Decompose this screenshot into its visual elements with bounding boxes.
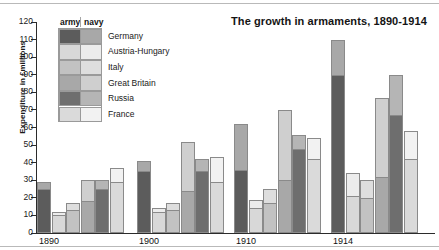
bar-italy-1890[interactable] bbox=[66, 203, 80, 233]
legend-item-great-britain[interactable] bbox=[59, 76, 103, 92]
bar-segment-army bbox=[360, 198, 374, 233]
legend-label: Russia bbox=[108, 94, 134, 103]
bar-segment-navy bbox=[249, 200, 263, 209]
legend-header-army: army bbox=[60, 17, 80, 27]
bar-italy-1900[interactable] bbox=[166, 203, 180, 233]
legend-swatch-army bbox=[59, 107, 81, 123]
bar-segment-navy bbox=[263, 189, 277, 203]
legend-label: Great Britain bbox=[108, 79, 156, 88]
legend-swatch-navy bbox=[80, 107, 102, 123]
bar-germany-1900[interactable] bbox=[137, 161, 151, 233]
legend-swatch-navy bbox=[80, 91, 102, 107]
bar-segment-navy bbox=[389, 75, 403, 115]
bar-germany-1910[interactable] bbox=[234, 124, 248, 233]
legend-item-austria-hungary[interactable] bbox=[59, 45, 103, 61]
x-axis-line bbox=[36, 233, 435, 234]
y-axis-tick-label: 80 bbox=[7, 87, 33, 96]
bar-segment-navy bbox=[52, 212, 66, 216]
bar-segment-navy bbox=[181, 142, 195, 191]
bar-segment-army bbox=[181, 191, 195, 233]
y-axis-tick-label: 40 bbox=[7, 158, 33, 167]
bar-segment-navy bbox=[137, 161, 151, 172]
bar-austria-hungary-1910[interactable] bbox=[249, 200, 263, 233]
bar-segment-navy bbox=[404, 131, 418, 159]
bar-segment-army bbox=[234, 170, 248, 233]
bar-segment-army bbox=[195, 171, 209, 233]
bar-russia-1910[interactable] bbox=[292, 135, 306, 233]
bar-segment-army bbox=[37, 189, 51, 233]
bar-great-britain-1900[interactable] bbox=[181, 142, 195, 233]
bar-segment-army bbox=[389, 115, 403, 233]
bar-great-britain-1910[interactable] bbox=[278, 110, 292, 233]
y-axis-tick-label: 100 bbox=[7, 52, 33, 61]
legend-label: Austria-Hungary bbox=[108, 47, 169, 56]
bar-segment-navy bbox=[331, 40, 345, 75]
y-axis-tick-label: 0 bbox=[7, 228, 33, 237]
y-axis-tick-label: 90 bbox=[7, 70, 33, 79]
bar-segment-army bbox=[95, 189, 109, 233]
bar-segment-navy bbox=[110, 168, 124, 182]
bar-great-britain-1890[interactable] bbox=[81, 180, 95, 233]
bar-segment-army bbox=[152, 212, 166, 233]
legend-item-italy[interactable] bbox=[59, 60, 103, 76]
y-axis-tick-label: 110 bbox=[7, 35, 33, 44]
bar-group bbox=[234, 22, 322, 233]
legend-label: Italy bbox=[108, 63, 124, 72]
y-axis-tick-label: 50 bbox=[7, 140, 33, 149]
legend-item-russia[interactable] bbox=[59, 91, 103, 107]
bar-group bbox=[331, 22, 419, 233]
bar-segment-navy bbox=[375, 98, 389, 177]
legend-swatch-navy bbox=[80, 29, 102, 45]
legend-item-germany[interactable] bbox=[59, 29, 103, 45]
bar-segment-navy bbox=[166, 203, 180, 210]
bar-segment-army bbox=[263, 203, 277, 233]
bar-segment-navy bbox=[346, 173, 360, 196]
bar-germany-1890[interactable] bbox=[37, 182, 51, 233]
legend-swatch-army bbox=[59, 75, 81, 91]
legend-item-france[interactable] bbox=[59, 107, 103, 123]
top-divider bbox=[0, 3, 439, 4]
bar-france-1910[interactable] bbox=[307, 138, 321, 233]
bar-great-britain-1914[interactable] bbox=[375, 98, 389, 233]
bar-russia-1914[interactable] bbox=[389, 75, 403, 233]
bar-france-1890[interactable] bbox=[110, 168, 124, 233]
bar-segment-army bbox=[346, 196, 360, 233]
legend-label: Germany bbox=[108, 32, 143, 41]
bar-austria-hungary-1914[interactable] bbox=[346, 173, 360, 233]
bar-italy-1914[interactable] bbox=[360, 180, 374, 233]
y-axis-tick-label: 70 bbox=[7, 105, 33, 114]
bar-segment-army bbox=[375, 177, 389, 233]
bar-austria-hungary-1890[interactable] bbox=[52, 212, 66, 233]
bar-segment-navy bbox=[234, 124, 248, 170]
legend-box bbox=[58, 28, 102, 122]
bar-russia-1890[interactable] bbox=[95, 180, 109, 233]
x-axis-tick-label: 1914 bbox=[333, 236, 353, 246]
bar-russia-1900[interactable] bbox=[195, 159, 209, 233]
bar-segment-navy bbox=[210, 157, 224, 182]
bar-france-1900[interactable] bbox=[210, 157, 224, 233]
bar-segment-army bbox=[331, 75, 345, 233]
bar-germany-1914[interactable] bbox=[331, 40, 345, 233]
bar-segment-navy bbox=[37, 182, 51, 189]
bar-austria-hungary-1900[interactable] bbox=[152, 208, 166, 233]
bar-segment-navy bbox=[307, 138, 321, 159]
bar-italy-1910[interactable] bbox=[263, 189, 277, 233]
bar-segment-army bbox=[404, 159, 418, 233]
bar-segment-navy bbox=[292, 135, 306, 149]
y-axis-tick-label: 120 bbox=[7, 17, 33, 26]
bar-segment-navy bbox=[360, 180, 374, 198]
bar-segment-army bbox=[137, 171, 151, 233]
legend-swatch-army bbox=[59, 60, 81, 76]
bar-segment-navy bbox=[66, 203, 80, 210]
legend-swatch-army bbox=[59, 91, 81, 107]
y-axis-tick-label: 20 bbox=[7, 193, 33, 202]
bar-segment-army bbox=[307, 159, 321, 233]
bar-segment-army bbox=[292, 149, 306, 233]
bar-france-1914[interactable] bbox=[404, 131, 418, 233]
x-axis-tick-label: 1890 bbox=[39, 236, 59, 246]
x-axis-tick-label: 1900 bbox=[139, 236, 159, 246]
legend-header-divider bbox=[80, 17, 81, 27]
bar-segment-army bbox=[81, 201, 95, 233]
bar-segment-army bbox=[278, 180, 292, 233]
bar-segment-army bbox=[52, 215, 66, 233]
